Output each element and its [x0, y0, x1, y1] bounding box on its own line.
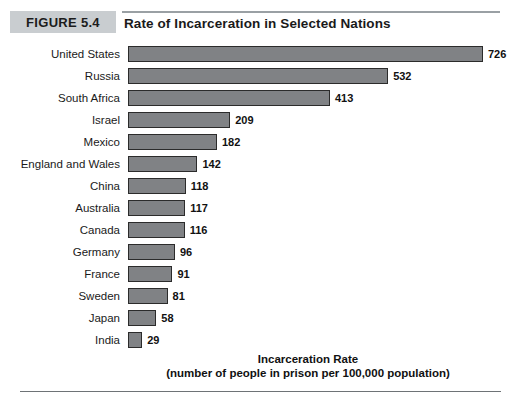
- bar-category-label: Australia: [0, 200, 120, 216]
- bar-track: 532: [128, 68, 516, 84]
- bar-track: 182: [128, 134, 516, 150]
- x-axis-caption-line-2: (number of people in prison per 100,000 …: [128, 366, 488, 380]
- bar: [128, 68, 388, 84]
- bar-track: 726: [128, 46, 516, 62]
- bar-track: 81: [128, 288, 516, 304]
- bar-category-label: Mexico: [0, 134, 120, 150]
- bar-track: 413: [128, 90, 516, 106]
- bar-track: 117: [128, 200, 516, 216]
- bar-category-label: India: [0, 332, 120, 348]
- bar: [128, 134, 217, 150]
- bar: [128, 222, 185, 238]
- bar-track: 58: [128, 310, 516, 326]
- bar-category-label: Germany: [0, 244, 120, 260]
- x-axis-caption-line-1: Incarceration Rate: [128, 352, 488, 366]
- figure-number-badge: FIGURE 5.4: [10, 11, 116, 33]
- bar: [128, 90, 330, 106]
- bar-track: 91: [128, 266, 516, 282]
- bar-value-label: 726: [488, 46, 506, 62]
- bar-category-label: South Africa: [0, 90, 120, 106]
- bar: [128, 266, 172, 282]
- bar-track: 209: [128, 112, 516, 128]
- bar-row: France91: [0, 266, 516, 288]
- bar-category-label: Russia: [0, 68, 120, 84]
- bar-value-label: 29: [147, 332, 159, 348]
- bar-row: China118: [0, 178, 516, 200]
- bar-value-label: 118: [191, 178, 209, 194]
- bar-row: Russia532: [0, 68, 516, 90]
- bar-row: Mexico182: [0, 134, 516, 156]
- bar-row: Canada116: [0, 222, 516, 244]
- bar: [128, 288, 168, 304]
- bar: [128, 178, 186, 194]
- bar-category-label: England and Wales: [0, 156, 120, 172]
- bar-value-label: 413: [335, 90, 353, 106]
- bar: [128, 112, 230, 128]
- bar-row: United States726: [0, 46, 516, 68]
- bar-value-label: 58: [161, 310, 173, 326]
- bar-track: 116: [128, 222, 516, 238]
- bar-category-label: China: [0, 178, 120, 194]
- bar-category-label: France: [0, 266, 120, 282]
- bar-value-label: 182: [222, 134, 240, 150]
- bar-value-label: 116: [190, 222, 208, 238]
- bar-category-label: United States: [0, 46, 120, 62]
- bar-category-label: Japan: [0, 310, 120, 326]
- bar-row: Sweden81: [0, 288, 516, 310]
- bar-row: England and Wales142: [0, 156, 516, 178]
- bar-track: 118: [128, 178, 516, 194]
- bar-row: South Africa413: [0, 90, 516, 112]
- bar-category-label: Canada: [0, 222, 120, 238]
- header-divider: [122, 11, 500, 13]
- bar-value-label: 81: [173, 288, 185, 304]
- bar-row: Australia117: [0, 200, 516, 222]
- bar-value-label: 209: [235, 112, 253, 128]
- bar: [128, 310, 156, 326]
- bar: [128, 200, 185, 216]
- bar-value-label: 117: [190, 200, 208, 216]
- chart-title: Rate of Incarceration in Selected Nation…: [124, 16, 391, 31]
- figure-header: FIGURE 5.4 Rate of Incarceration in Sele…: [0, 0, 516, 40]
- bottom-divider: [20, 391, 501, 392]
- bar-value-label: 532: [393, 68, 411, 84]
- bar-track: 29: [128, 332, 516, 348]
- bar: [128, 244, 175, 260]
- bar: [128, 332, 142, 348]
- bar-category-label: Israel: [0, 112, 120, 128]
- bar-track: 142: [128, 156, 516, 172]
- bar: [128, 46, 483, 62]
- bar-value-label: 96: [180, 244, 192, 260]
- bar-value-label: 91: [177, 266, 189, 282]
- bar-row: Germany96: [0, 244, 516, 266]
- bar-value-label: 142: [202, 156, 220, 172]
- bar-row: Japan58: [0, 310, 516, 332]
- bar-chart-plot-area: United States726Russia532South Africa413…: [0, 46, 516, 352]
- bar-row: India29: [0, 332, 516, 354]
- bar: [128, 156, 197, 172]
- bar-category-label: Sweden: [0, 288, 120, 304]
- bar-track: 96: [128, 244, 516, 260]
- bar-row: Israel209: [0, 112, 516, 134]
- figure-number-label: FIGURE 5.4: [26, 15, 100, 30]
- x-axis-caption: Incarceration Rate (number of people in …: [128, 352, 488, 380]
